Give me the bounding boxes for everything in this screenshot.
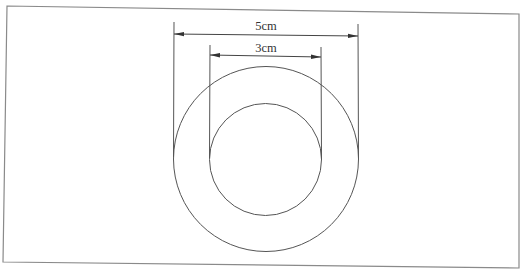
inner-extension-line-right — [321, 47, 322, 160]
outer-extension-line-right — [358, 24, 359, 159]
inner-diameter-label: 3cm — [255, 41, 277, 55]
outer-extension-line-left — [174, 22, 175, 157]
inner-circle — [210, 104, 322, 216]
diagram-canvas: 5cm 3cm — [0, 0, 523, 270]
inner-dimension-line — [210, 55, 321, 57]
outer-dimension-line — [174, 34, 358, 36]
outer-diameter-label: 5cm — [255, 19, 277, 33]
outer-circle — [174, 67, 359, 252]
inner-extension-line-left — [210, 45, 211, 158]
